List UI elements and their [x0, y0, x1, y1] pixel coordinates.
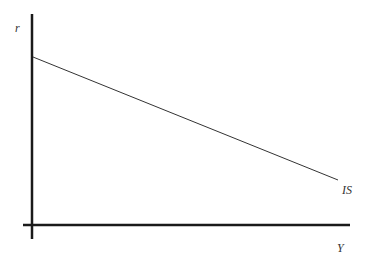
is-curve-diagram: r Y IS [0, 0, 370, 267]
x-axis-label: Y [337, 241, 345, 255]
y-axis-label: r [15, 21, 20, 35]
is-curve [33, 57, 338, 180]
curve-label: IS [341, 183, 352, 197]
